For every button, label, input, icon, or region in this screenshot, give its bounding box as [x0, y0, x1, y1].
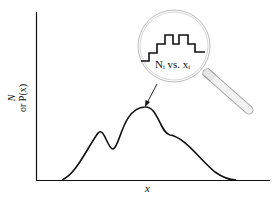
magnifier-handle [205, 71, 249, 110]
distribution-curve [62, 107, 236, 180]
y-axis-label-n: N [6, 84, 17, 112]
y-axis-label-px: or P(x) [17, 84, 28, 112]
magnifier-lens-icon [138, 10, 210, 82]
x-axis-label: x [145, 182, 150, 194]
y-axis-label: N or P(x) [6, 84, 28, 112]
arrow-head-icon [145, 100, 150, 107]
distribution-diagram [0, 0, 279, 201]
magnifier-label: Nᵢ vs. xᵢ [155, 58, 190, 70]
pointer-arrow [147, 84, 157, 103]
